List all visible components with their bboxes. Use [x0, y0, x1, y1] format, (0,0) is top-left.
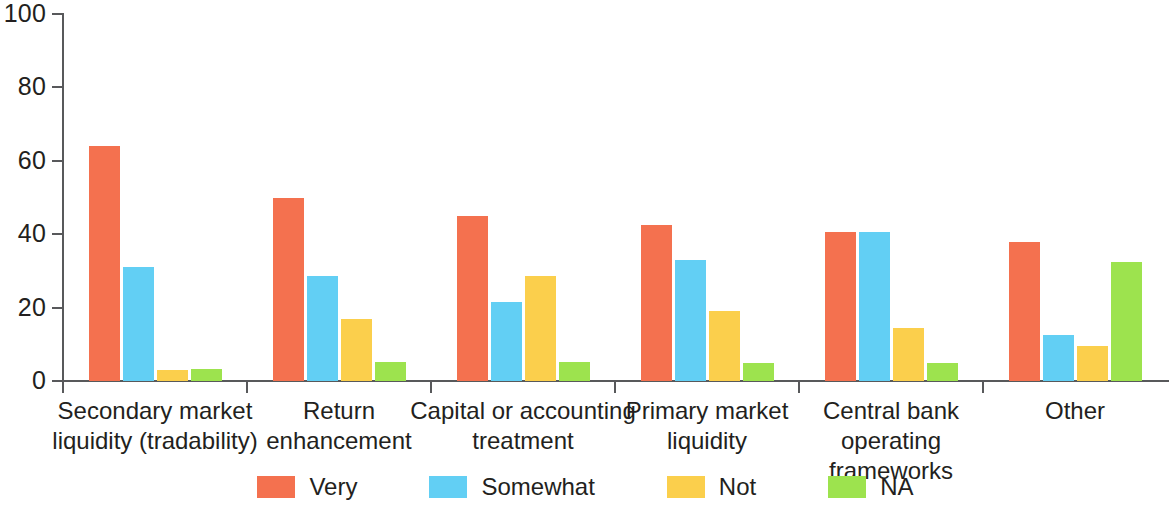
bar: [559, 362, 590, 381]
legend-item[interactable]: NA: [828, 475, 913, 499]
y-axis-tick: [52, 160, 63, 162]
bar: [1111, 262, 1142, 381]
x-axis-tick: [982, 382, 984, 393]
legend-label: NA: [880, 475, 913, 499]
bar: [675, 260, 706, 381]
y-axis-tick: [52, 86, 63, 88]
bar: [641, 225, 672, 381]
bar: [307, 276, 338, 381]
legend-swatch-icon: [429, 476, 467, 498]
legend-label: Somewhat: [481, 475, 594, 499]
plot-area: [63, 14, 1167, 381]
y-axis-tick: [52, 307, 63, 309]
x-axis-tick: [62, 382, 64, 393]
bar: [927, 363, 958, 381]
x-axis-category-label: Other: [961, 396, 1171, 426]
x-axis-tick: [430, 382, 432, 393]
legend-item[interactable]: Somewhat: [429, 475, 594, 499]
legend-item[interactable]: Very: [257, 475, 357, 499]
y-axis-tick-label: 80: [0, 74, 46, 99]
y-axis-tick-label: 0: [0, 368, 46, 393]
bar: [1043, 335, 1074, 381]
bar: [1009, 242, 1040, 381]
bar: [743, 363, 774, 381]
bar: [341, 319, 372, 381]
bar: [1077, 346, 1108, 381]
bar: [157, 370, 188, 381]
bar: [123, 267, 154, 381]
bar: [457, 216, 488, 381]
bar: [375, 362, 406, 381]
legend-item[interactable]: Not: [667, 475, 756, 499]
bar-chart: 020406080100 Secondary market liquidity …: [0, 0, 1171, 509]
y-axis-tick-label: 20: [0, 295, 46, 320]
legend-swatch-icon: [257, 476, 295, 498]
bar: [859, 232, 890, 381]
chart-legend: VerySomewhatNotNA: [0, 472, 1171, 502]
legend-swatch-icon: [828, 476, 866, 498]
legend-label: Not: [719, 475, 756, 499]
bar: [709, 311, 740, 381]
y-axis-tick-label: 60: [0, 148, 46, 173]
bar: [525, 276, 556, 381]
x-axis-tick: [246, 382, 248, 393]
bar: [89, 146, 120, 381]
y-axis-tick-label: 40: [0, 221, 46, 246]
legend-label: Very: [309, 475, 357, 499]
y-axis-tick: [52, 233, 63, 235]
x-axis-tick: [614, 382, 616, 393]
bar: [825, 232, 856, 381]
legend-swatch-icon: [667, 476, 705, 498]
bar: [491, 302, 522, 381]
bar: [273, 198, 304, 382]
y-axis-tick-label: 100: [0, 1, 46, 26]
y-axis-tick: [52, 13, 63, 15]
x-axis-tick: [798, 382, 800, 393]
bar: [191, 369, 222, 381]
bar: [893, 328, 924, 381]
